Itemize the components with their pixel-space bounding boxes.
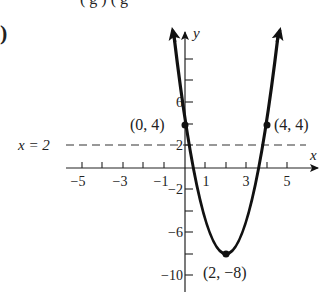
y-tick-label: −10 <box>161 268 183 283</box>
x-tick-label: −5 <box>71 174 86 189</box>
point-label: (0, 4) <box>130 116 165 134</box>
point-label: (2, −8) <box>203 264 247 282</box>
curve-arrow-left <box>173 30 176 42</box>
x-tick-label: 1 <box>203 174 210 189</box>
header-fragment: ( g ) ( g <box>80 0 128 8</box>
y-tick-label: −6 <box>168 225 183 240</box>
y-axis-label: y <box>191 25 200 41</box>
point-vertex <box>223 251 230 258</box>
x-tick-label: −1 <box>154 174 169 189</box>
parabola-graph: ( g ) ( g ) x = 2 x −5 −3 −1 1 3 5 <box>0 0 332 303</box>
part-label: ) <box>0 20 7 45</box>
x-tick-label: 3 <box>243 174 250 189</box>
point-0-4 <box>182 122 189 129</box>
y-tick-label: −2 <box>168 182 183 197</box>
x-tick-label: −3 <box>113 174 128 189</box>
x-axis-label: x <box>309 147 317 163</box>
y-tick-label: 2 <box>176 138 183 153</box>
asymptote-label: x = 2 <box>17 137 50 153</box>
x-tick-label: 5 <box>284 174 291 189</box>
point-label: (4, 4) <box>274 116 309 134</box>
curve-arrow-right <box>277 30 280 42</box>
point-4-4 <box>264 122 271 129</box>
